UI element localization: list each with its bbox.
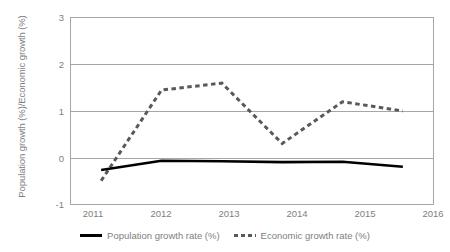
y-axis-tick-labels: 3 2 1 0 -1 (48, 0, 64, 252)
y-tick-label: 1 (48, 107, 64, 117)
x-tick-label: 2015 (342, 209, 388, 219)
dotted-line-swatch-icon (234, 234, 256, 237)
x-axis-tick-labels: 2011 2012 2013 2014 2015 2016 (70, 209, 434, 223)
line-chart: Population growth (%)/Economic growth (%… (0, 0, 450, 252)
legend-label: Population growth rate (%) (107, 231, 219, 241)
x-tick-label: 2013 (206, 209, 252, 219)
y-axis-title: Population growth (%)/Economic growth (%… (16, 7, 27, 207)
legend-item-population-growth-rate: Population growth rate (%) (80, 231, 219, 241)
solid-line-swatch-icon (80, 234, 102, 237)
x-tick-label: 2014 (274, 209, 320, 219)
y-tick-label: 0 (48, 154, 64, 164)
legend-item-economic-growth-rate: Economic growth rate (%) (234, 231, 370, 241)
series-canvas (71, 18, 433, 204)
y-tick-label: 3 (48, 13, 64, 23)
legend-label: Economic growth rate (%) (261, 231, 370, 241)
x-tick-label: 2016 (410, 209, 450, 219)
plot-area (70, 17, 434, 205)
series-line-economic-growth-rate (101, 83, 403, 181)
series-line-population-growth-rate (101, 161, 403, 170)
x-tick-label: 2011 (70, 209, 116, 219)
chart-legend: Population growth rate (%) Economic grow… (0, 231, 450, 241)
y-tick-label: 2 (48, 60, 64, 70)
y-tick-label: -1 (48, 200, 64, 210)
x-tick-label: 2012 (138, 209, 184, 219)
